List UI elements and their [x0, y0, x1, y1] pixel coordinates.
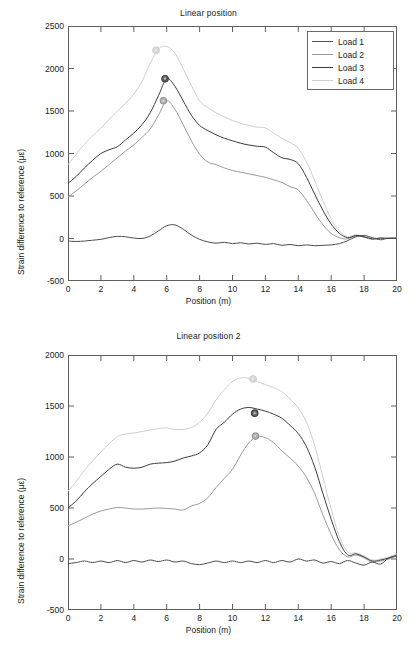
x-tick-label: 16	[319, 613, 343, 623]
legend-item[interactable]: Load 2	[308, 48, 393, 61]
y-tick-label: 500	[0, 503, 64, 513]
x-tick-label: 10	[221, 613, 245, 623]
y-tick-label: 2000	[0, 350, 64, 360]
y-tick-label: 1000	[0, 149, 64, 159]
y-tick-label: 500	[0, 191, 64, 201]
legend-item[interactable]: Load 3	[308, 61, 393, 74]
y-tick-label: -500	[0, 605, 64, 615]
x-tick-label: 14	[286, 284, 310, 294]
legend-item-label: Load 1	[338, 36, 364, 48]
peak-marker-center	[155, 49, 157, 51]
x-tick-label: 4	[122, 284, 146, 294]
legend-item[interactable]: Load 4	[308, 74, 393, 87]
peak-marker-center	[254, 412, 256, 414]
x-tick-label: 12	[253, 284, 277, 294]
x-tick-label: 18	[352, 284, 376, 294]
peak-marker-center	[164, 78, 166, 80]
y-tick-label: 2500	[0, 21, 64, 31]
x-tick-label: 10	[221, 284, 245, 294]
x-tick-label: 6	[155, 284, 179, 294]
x-tick-label: 2	[89, 284, 113, 294]
x-tick-label: 16	[319, 284, 343, 294]
x-tick-label: 2	[89, 613, 113, 623]
legend-line-swatch	[312, 67, 333, 68]
y-tick-label: 1000	[0, 452, 64, 462]
figure-container: Linear position Strain difference to ref…	[0, 0, 417, 651]
legend-line-swatch	[312, 41, 333, 42]
x-tick-label: 20	[385, 613, 409, 623]
x-tick-label: 14	[286, 613, 310, 623]
series-line	[68, 408, 397, 562]
legend-item-label: Load 3	[338, 62, 364, 74]
x-tick-label: 20	[385, 284, 409, 294]
chart-title-top: Linear position	[0, 8, 417, 18]
series-line	[68, 101, 397, 240]
y-tick-label: 1500	[0, 401, 64, 411]
x-tick-label: 0	[56, 613, 80, 623]
legend-line-swatch	[312, 54, 333, 55]
y-tick-label: 1500	[0, 106, 64, 116]
peak-marker-center	[252, 378, 254, 380]
x-axis-label-bottom: Position (m)	[0, 625, 417, 635]
legend-item-label: Load 2	[338, 49, 364, 61]
peak-marker-center	[254, 435, 256, 437]
x-tick-label: 12	[253, 613, 277, 623]
y-tick-label: 0	[0, 554, 64, 564]
x-tick-label: 0	[56, 284, 80, 294]
y-tick-label: 2000	[0, 64, 64, 74]
y-axis-label-top: Strain difference to reference (με)	[16, 149, 26, 275]
chart-panel-linear-position: Linear position Strain difference to ref…	[0, 0, 417, 322]
legend-line-swatch	[312, 80, 333, 81]
plot-lines-bottom	[68, 355, 397, 610]
x-tick-label: 18	[352, 613, 376, 623]
x-tick-label: 4	[122, 613, 146, 623]
chart-title-bottom: Linear position 2	[0, 331, 417, 341]
series-line	[68, 78, 397, 239]
legend-item[interactable]: Load 1	[308, 35, 393, 48]
plot-area-bottom	[68, 355, 397, 610]
x-tick-label: 8	[188, 284, 212, 294]
y-axis-label-bottom: Strain difference to reference (με)	[16, 478, 26, 604]
chart-panel-linear-position-2: Linear position 2 Strain difference to r…	[0, 322, 417, 651]
y-tick-label: 0	[0, 234, 64, 244]
series-line	[68, 436, 397, 562]
x-tick-label: 8	[188, 613, 212, 623]
series-line	[68, 225, 397, 246]
y-tick-label: -500	[0, 276, 64, 286]
x-tick-label: 6	[155, 613, 179, 623]
peak-marker-center	[162, 100, 164, 102]
x-axis-label-top: Position (m)	[0, 296, 417, 306]
legend-item-label: Load 4	[338, 75, 364, 87]
legend-box: Load 1Load 2Load 3Load 4	[307, 31, 394, 90]
